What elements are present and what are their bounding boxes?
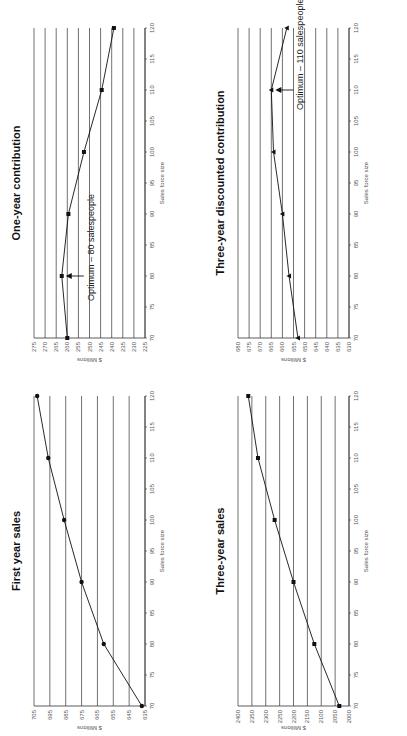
x-tick-label: 80	[149, 640, 155, 647]
y-tick-label: 230	[131, 341, 137, 352]
annotation-text: Optimum – 110 salespeople	[295, 0, 305, 110]
y-tick-label: 240	[109, 341, 115, 352]
y-tick-label: 2400	[235, 709, 241, 723]
chart-first-year-sales: First year sales635645655665675685695705…	[0, 368, 203, 736]
y-tick-label: 665	[268, 341, 274, 352]
y-tick-label: 650	[302, 341, 308, 352]
x-tick-label: 70	[353, 334, 359, 341]
y-tick-label: 260	[64, 341, 70, 352]
y-tick-label: 635	[142, 709, 148, 720]
x-tick-label: 105	[353, 483, 359, 494]
x-tick-label: 80	[149, 272, 155, 279]
x-tick-label: 75	[353, 671, 359, 678]
x-tick-label: 115	[149, 54, 155, 64]
x-tick-label: 115	[353, 54, 359, 64]
data-point-marker	[62, 518, 66, 522]
y-tick-label: 225	[142, 341, 148, 352]
x-tick-label: 110	[149, 453, 155, 463]
y-tick-label: 655	[291, 341, 297, 352]
x-axis-label: Sales force size	[159, 529, 165, 572]
data-point-marker	[256, 456, 260, 460]
y-tick-label: 660	[279, 341, 285, 352]
data-point-marker	[35, 394, 39, 398]
figure-page: First year sales635645655665675685695705…	[0, 0, 407, 736]
x-axis-label: Sales force size	[363, 529, 369, 572]
y-tick-label: 2000	[346, 709, 352, 723]
x-tick-label: 110	[353, 85, 359, 95]
x-tick-label: 100	[353, 514, 359, 525]
x-tick-label: 115	[353, 422, 359, 432]
data-point-marker	[46, 456, 50, 460]
y-tick-label: 630	[346, 341, 352, 352]
y-tick-label: 235	[120, 341, 126, 352]
x-tick-label: 90	[149, 210, 155, 217]
x-tick-label: 70	[353, 702, 359, 709]
y-axis-label: $ Millions	[281, 357, 306, 363]
x-tick-label: 85	[353, 241, 359, 248]
x-tick-label: 120	[149, 22, 155, 33]
x-tick-label: 85	[149, 609, 155, 616]
arrow-head-icon	[275, 87, 281, 93]
y-tick-label: 635	[335, 341, 341, 352]
data-point-marker	[273, 518, 277, 522]
x-tick-label: 85	[353, 609, 359, 616]
data-point-marker	[112, 26, 116, 30]
y-axis-label: $ Millions	[77, 725, 102, 731]
x-tick-label: 105	[353, 115, 359, 126]
x-tick-label: 100	[353, 146, 359, 157]
annotation-text: Optimum – 80 salespeople	[86, 194, 96, 301]
arrow-head-icon	[66, 273, 72, 279]
y-tick-label: 275	[31, 341, 37, 352]
y-tick-label: 2150	[304, 709, 310, 723]
x-axis-label: Sales force size	[363, 161, 369, 204]
x-tick-label: 90	[353, 210, 359, 217]
data-point-marker	[82, 150, 86, 154]
x-tick-label: 120	[149, 390, 155, 401]
y-tick-label: 675	[79, 709, 85, 720]
x-tick-label: 95	[353, 179, 359, 186]
y-tick-label: 670	[257, 341, 263, 352]
data-point-marker	[102, 642, 106, 646]
x-tick-label: 100	[149, 146, 155, 157]
data-point-marker	[312, 642, 316, 646]
y-tick-label: 2050	[332, 709, 338, 723]
series-line	[37, 396, 142, 706]
y-tick-label: 270	[42, 341, 48, 352]
x-tick-label: 95	[353, 547, 359, 554]
x-tick-label: 120	[353, 22, 359, 33]
y-tick-label: 655	[110, 709, 116, 720]
y-tick-label: 685	[63, 709, 69, 720]
data-point-marker	[292, 580, 296, 584]
data-point-marker	[246, 394, 250, 398]
x-tick-label: 95	[149, 179, 155, 186]
x-tick-label: 75	[149, 303, 155, 310]
x-tick-label: 120	[353, 390, 359, 401]
y-tick-label: 2250	[277, 709, 283, 723]
x-tick-label: 80	[353, 272, 359, 279]
data-point-marker	[60, 274, 64, 278]
data-point-marker	[100, 88, 104, 92]
x-tick-label: 75	[149, 671, 155, 678]
y-tick-label: 665	[94, 709, 100, 720]
y-tick-label: 680	[235, 341, 241, 352]
chart-title: Three-year discounted contribution	[214, 90, 226, 275]
chart-title: One-year contribution	[10, 125, 22, 240]
chart-one-year-contribution: One-year contribution2252302352402452502…	[0, 0, 203, 368]
x-tick-label: 110	[149, 85, 155, 95]
x-tick-label: 80	[353, 640, 359, 647]
data-point-marker	[140, 704, 144, 708]
x-tick-label: 115	[149, 422, 155, 432]
data-point-marker	[66, 212, 70, 216]
x-tick-label: 95	[149, 547, 155, 554]
data-point-marker	[79, 580, 83, 584]
chart-three-year-sales: Three-year sales200020502100215022002250…	[204, 368, 407, 736]
data-point-marker	[337, 704, 341, 708]
y-axis-label: $ Millions	[77, 357, 102, 363]
y-tick-label: 2200	[291, 709, 297, 723]
chart-title: First year sales	[10, 511, 22, 591]
x-tick-label: 85	[149, 241, 155, 248]
y-tick-label: 675	[246, 341, 252, 352]
x-tick-label: 90	[149, 578, 155, 585]
y-tick-label: 645	[313, 341, 319, 352]
x-tick-label: 70	[149, 334, 155, 341]
